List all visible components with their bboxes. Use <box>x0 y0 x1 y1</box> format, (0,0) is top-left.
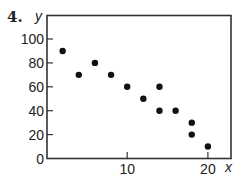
data-point <box>124 84 130 90</box>
y-tick-label: 80 <box>28 55 44 71</box>
data-point <box>108 72 114 78</box>
data-point <box>205 143 211 149</box>
x-axis-label: x <box>224 159 233 175</box>
data-point <box>172 108 178 114</box>
plot-frame <box>47 16 231 159</box>
data-point <box>76 72 82 78</box>
data-point <box>189 131 195 137</box>
data-point <box>156 84 162 90</box>
y-axis-ticks: 020406080100 <box>21 31 53 167</box>
data-point <box>140 96 146 102</box>
y-tick-label: 0 <box>36 151 44 167</box>
y-tick-label: 20 <box>28 127 44 143</box>
y-tick-label: 40 <box>28 103 44 119</box>
scatter-chart: 4. y x 020406080100 1020 <box>0 0 248 181</box>
x-axis-ticks: 1020 <box>119 152 215 177</box>
data-point <box>156 108 162 114</box>
y-axis-label: y <box>34 8 43 24</box>
x-tick-label: 20 <box>200 161 216 177</box>
data-point <box>59 48 65 54</box>
data-points <box>59 48 211 150</box>
x-tick-label: 10 <box>119 161 135 177</box>
data-point <box>189 119 195 125</box>
y-tick-label: 100 <box>21 31 45 47</box>
y-tick-label: 60 <box>28 79 44 95</box>
data-point <box>92 60 98 66</box>
problem-number: 4. <box>7 8 23 26</box>
